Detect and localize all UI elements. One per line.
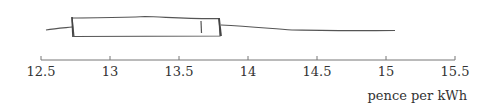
iqr-box bbox=[72, 17, 220, 37]
x-axis-label: pence per kWh bbox=[368, 88, 467, 103]
q1-edge bbox=[72, 17, 73, 37]
x-tick-label: 15 bbox=[378, 64, 395, 79]
x-tick-label: 15.5 bbox=[441, 64, 470, 79]
x-tick-label: 14 bbox=[240, 64, 257, 79]
right-whisker bbox=[221, 25, 395, 31]
x-tick-label: 13 bbox=[102, 64, 119, 79]
x-tick-label: 14.5 bbox=[303, 64, 332, 79]
x-tick-label: 13.5 bbox=[165, 64, 194, 79]
median-line bbox=[201, 21, 202, 33]
x-axis-ticks bbox=[41, 56, 455, 60]
left-whisker bbox=[46, 27, 72, 30]
x-tick-label: 12.5 bbox=[27, 64, 56, 79]
